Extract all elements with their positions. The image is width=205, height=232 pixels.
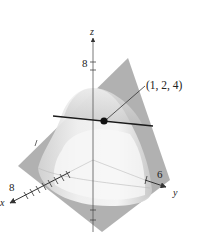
- z-axis-tick-label: 8: [82, 57, 88, 69]
- surface-plot-figure: z 8 (1, 2, 4) 8 x 6 y: [0, 0, 205, 232]
- x-axis-tick-label: 8: [9, 181, 15, 193]
- point-label: (1, 2, 4): [146, 79, 183, 92]
- y-axis-tick-label: 6: [157, 168, 163, 180]
- x-axis-label: x: [0, 197, 5, 208]
- y-axis-label: y: [172, 187, 178, 198]
- z-axis-label: z: [89, 26, 94, 37]
- point-marker: [100, 117, 107, 124]
- y-axis-tick: [35, 140, 37, 146]
